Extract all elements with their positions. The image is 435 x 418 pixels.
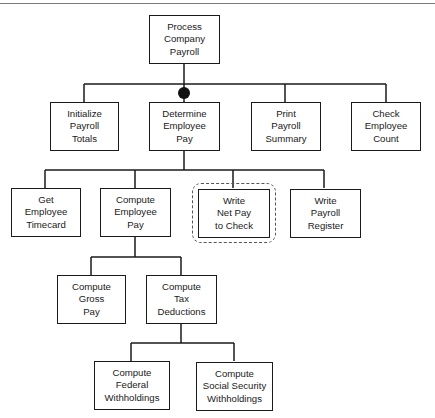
node-label-line: Pay [83, 306, 100, 319]
node-label-line: Initialize [67, 108, 102, 121]
node-label-line: Compute [215, 368, 254, 381]
node-compute-social-security-withholdings[interactable]: Compute Social Security Withholdings [196, 362, 273, 411]
node-label-line: Withholdings [105, 392, 160, 405]
node-label-line: Pay [176, 133, 193, 146]
node-label-line: Compute [113, 367, 152, 380]
node-write-payroll-register[interactable]: Write Payroll Register [290, 189, 361, 238]
node-label-line: Payroll [70, 120, 99, 133]
node-print-payroll-summary[interactable]: Print Payroll Summary [251, 102, 321, 151]
node-process-company-payroll[interactable]: Process Company Payroll [149, 15, 220, 64]
node-label-line: Federal [116, 379, 149, 392]
iteration-dot-icon [178, 87, 190, 99]
node-label-line: Employee [114, 206, 157, 219]
node-check-employee-count[interactable]: Check Employee Count [351, 102, 421, 151]
node-label-line: Summary [265, 133, 306, 146]
node-label-line: Get [38, 194, 53, 207]
node-label-line: Register [308, 220, 344, 233]
node-label-line: Count [373, 133, 399, 146]
node-label-line: Withholdings [207, 393, 262, 406]
node-label-line: Gross [79, 293, 105, 306]
node-label-line: Employee [163, 120, 206, 133]
node-label-line: Deductions [158, 306, 206, 319]
node-compute-employee-pay[interactable]: Compute Employee Pay [100, 188, 171, 237]
node-label-line: Timecard [26, 219, 66, 232]
node-label-line: Company [164, 33, 205, 46]
node-get-employee-timecard[interactable]: Get Employee Timecard [11, 188, 81, 237]
node-write-net-pay-to-check[interactable]: Write Net Pay to Check [198, 189, 270, 238]
node-label-line: Compute [116, 194, 155, 207]
node-label-line: Payroll [271, 120, 300, 133]
node-compute-federal-withholdings[interactable]: Compute Federal Withholdings [94, 361, 170, 410]
node-label-line: to Check [215, 220, 253, 233]
node-label-line: Pay [127, 219, 144, 232]
node-label-line: Payroll [311, 207, 340, 220]
node-label-line: Write [223, 195, 245, 208]
node-label-line: Write [314, 195, 336, 208]
node-label-line: Compute [162, 281, 201, 294]
node-label-line: Check [372, 108, 399, 121]
node-compute-gross-pay[interactable]: Compute Gross Pay [57, 275, 126, 324]
node-label-line: Process [167, 21, 202, 34]
node-compute-tax-deductions[interactable]: Compute Tax Deductions [146, 275, 217, 324]
node-label-line: Employee [365, 120, 408, 133]
node-determine-employee-pay[interactable]: Determine Employee Pay [149, 102, 220, 151]
node-label-line: Compute [72, 281, 111, 294]
node-label-line: Print [276, 108, 296, 121]
node-label-line: Determine [162, 108, 206, 121]
node-label-line: Tax [174, 293, 189, 306]
node-label-line: Social Security [203, 380, 266, 393]
node-label-line: Employee [25, 206, 68, 219]
node-label-line: Totals [72, 133, 97, 146]
node-label-line: Payroll [170, 46, 199, 59]
node-initialize-payroll-totals[interactable]: Initialize Payroll Totals [50, 102, 119, 151]
node-label-line: Net Pay [217, 207, 251, 220]
